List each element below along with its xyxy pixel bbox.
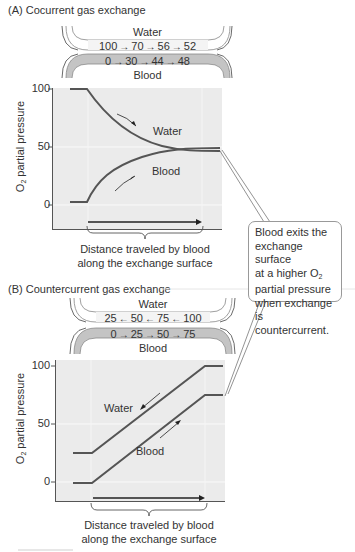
callout-line: when exchange (255, 297, 335, 311)
callout-text: at a higher O (255, 267, 319, 279)
callout-line: partial pressure (255, 283, 335, 297)
callout-box: Blood exits the exchange surface at a hi… (248, 221, 342, 302)
callout-line: Blood exits the (255, 226, 335, 240)
callout-line: at a higher O2 (255, 267, 335, 284)
callout-line: is countercurrent. (255, 310, 335, 337)
bottom-rule (18, 549, 78, 551)
callout-sub: 2 (319, 273, 323, 280)
callout-line: exchange surface (255, 240, 335, 267)
